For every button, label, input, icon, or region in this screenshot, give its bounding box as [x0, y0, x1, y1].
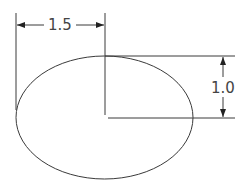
- dimension-label-height: 1.0: [211, 79, 235, 97]
- technical-drawing: 1.5 1.0: [0, 0, 245, 185]
- dimension-label-width: 1.5: [48, 16, 72, 34]
